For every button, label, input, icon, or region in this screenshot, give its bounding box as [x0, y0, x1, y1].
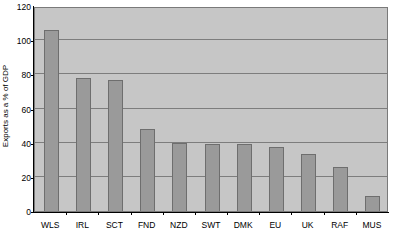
x-axis-tick-mark [227, 212, 228, 215]
plot-area [34, 7, 388, 212]
x-axis-tick-label: RAF [324, 220, 356, 230]
y-axis-line [33, 6, 34, 213]
bar [333, 167, 348, 211]
x-axis-tick-label: EU [259, 220, 291, 230]
x-axis-tick-label: FND [131, 220, 163, 230]
x-axis-tick-mark [356, 212, 357, 215]
x-axis-tick-label: SWT [195, 220, 227, 230]
y-axis-tick-label: 0 [12, 208, 31, 216]
bar [269, 147, 284, 211]
x-axis-tick-label: MUS [356, 220, 388, 230]
bar [365, 196, 380, 211]
x-axis-tick-label: UK [291, 220, 323, 230]
y-axis-tick-label: 80 [12, 71, 31, 79]
bar [205, 144, 220, 211]
y-axis-tick-label: 100 [12, 37, 31, 45]
x-axis-tick-mark [163, 212, 164, 215]
gridline [35, 73, 387, 74]
x-axis-tick-label: SCT [98, 220, 130, 230]
y-axis-tick-label: 60 [12, 106, 31, 114]
bar [44, 30, 59, 211]
y-axis-tick-label: 40 [12, 140, 31, 148]
y-axis-title: Exports as a % of GDP [0, 0, 12, 212]
x-axis-tick-label: NZD [163, 220, 195, 230]
gridline [35, 39, 387, 40]
bar [237, 144, 252, 211]
y-axis-tick-label: 20 [12, 174, 31, 182]
x-axis-tick-mark [195, 212, 196, 215]
bar [301, 154, 316, 211]
x-axis-tick-mark [259, 212, 260, 215]
chart-screenshot: Exports as a % of GDP 120100806040200 WL… [0, 0, 400, 246]
x-axis-tick-mark [324, 212, 325, 215]
x-axis-tick-mark [66, 212, 67, 215]
bar [108, 80, 123, 211]
y-axis-tick-labels: 120100806040200 [12, 0, 31, 246]
x-axis-tick-label: IRL [66, 220, 98, 230]
bar [172, 143, 187, 211]
x-axis-tick-label: WLS [34, 220, 66, 230]
x-axis-tick-mark [131, 212, 132, 215]
bar [140, 129, 155, 211]
x-axis-tick-label: DMK [227, 220, 259, 230]
clipped-caption [34, 238, 388, 246]
x-axis-tick-mark [291, 212, 292, 215]
x-axis-tick-mark [98, 212, 99, 215]
y-axis-tick-label: 120 [12, 3, 31, 11]
bar [76, 78, 91, 211]
